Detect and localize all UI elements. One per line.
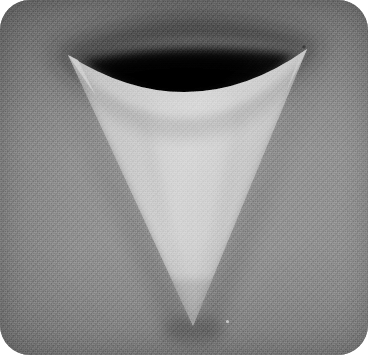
photo-frame: Grayscale photograph of a sheet of paper…: [0, 0, 368, 355]
paper-cone-scene: [0, 0, 368, 355]
dust-speck: [226, 320, 229, 323]
edge-nick-mark: [302, 45, 305, 48]
photo-plate: [0, 0, 368, 355]
